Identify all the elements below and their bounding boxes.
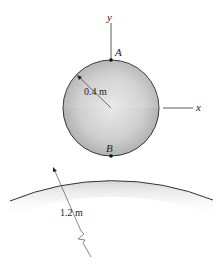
break-symbol: [78, 231, 85, 243]
small-radius-label: 0.4 m: [84, 86, 107, 97]
point-a-label: A: [114, 46, 122, 58]
disk-on-cylinder-diagram: y 0.4 m x A B 1.2 m: [0, 0, 224, 266]
disk-sheen: [111, 60, 159, 108]
point-b-marker: [109, 154, 113, 158]
y-axis-label: y: [106, 11, 112, 23]
large-radius-label: 1.2 m: [60, 207, 83, 218]
large-radius-arrowhead: [53, 167, 57, 172]
point-a-marker: [109, 58, 113, 62]
point-b-label: B: [106, 142, 113, 154]
x-axis-label: x: [195, 101, 201, 113]
large-radius-line-continued: [83, 243, 91, 257]
large-surface-shading: [10, 181, 213, 217]
